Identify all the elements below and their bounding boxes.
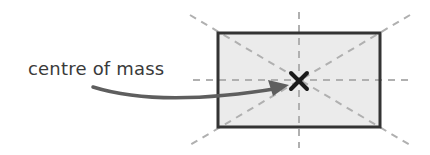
centre-of-mass-label: centre of mass <box>28 58 164 79</box>
